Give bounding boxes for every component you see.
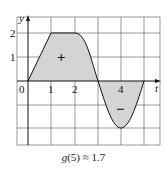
x-tick-2: 2: [72, 83, 78, 95]
y-axis-arrow-icon: [26, 15, 30, 21]
y-axis-label: y: [18, 12, 24, 24]
caption: g(5) ≈ 1.7: [0, 151, 167, 163]
x-tick-4: 4: [118, 83, 124, 95]
y-tick-1: 1: [10, 51, 16, 63]
y-tick-2: 2: [10, 27, 16, 39]
x-axis-label: t: [155, 82, 159, 94]
caption-value: (5) ≈ 1.7: [67, 151, 105, 163]
origin-label: 0: [19, 83, 25, 95]
x-tick-1: 1: [48, 83, 54, 95]
chart: y t 0 1 2 4 1 2 + −: [0, 0, 167, 174]
minus-sign: −: [116, 101, 125, 117]
plus-sign: +: [57, 49, 66, 65]
